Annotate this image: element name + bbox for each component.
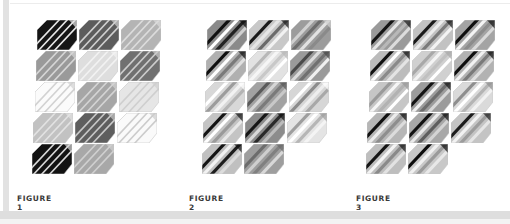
tile <box>77 82 117 112</box>
tile <box>412 51 452 81</box>
tile <box>35 82 75 112</box>
top-rule <box>10 3 510 4</box>
tile <box>117 113 157 143</box>
figure-1-caption: FIGURE 1 <box>17 194 52 212</box>
tile <box>74 144 114 174</box>
tile <box>121 20 161 50</box>
tile <box>120 51 160 81</box>
tile <box>203 113 243 143</box>
tile <box>409 113 449 143</box>
tile <box>207 20 247 50</box>
bottom-band <box>0 211 510 224</box>
tile <box>36 51 76 81</box>
tile <box>455 20 495 50</box>
tile <box>75 113 115 143</box>
tile <box>290 51 330 81</box>
tile <box>244 144 284 174</box>
tile <box>367 113 407 143</box>
tile <box>248 51 288 81</box>
tile <box>289 82 329 112</box>
tile <box>32 144 72 174</box>
tile <box>206 51 246 81</box>
tile <box>408 144 448 174</box>
tile <box>33 113 73 143</box>
tile <box>371 20 411 50</box>
tile <box>369 82 409 112</box>
tile <box>366 144 406 174</box>
tile <box>291 20 331 50</box>
tile <box>370 51 410 81</box>
tile <box>413 20 453 50</box>
tile <box>454 51 494 81</box>
tile <box>245 113 285 143</box>
figure-2-caption: FIGURE 2 <box>189 194 224 212</box>
tile <box>287 113 327 143</box>
tile <box>119 82 159 112</box>
tile <box>451 113 491 143</box>
tile <box>247 82 287 112</box>
tile <box>202 144 242 174</box>
figure-3-caption: FIGURE 3 <box>356 194 391 212</box>
tile <box>205 82 245 112</box>
left-margin-bar <box>3 0 9 212</box>
tile <box>79 20 119 50</box>
tile <box>411 82 451 112</box>
tile <box>249 20 289 50</box>
tile <box>453 82 493 112</box>
tile <box>37 20 77 50</box>
tile <box>78 51 118 81</box>
